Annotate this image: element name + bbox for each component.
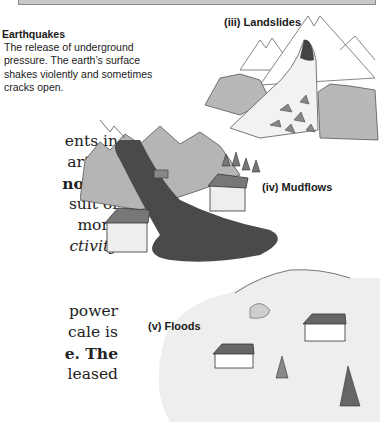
top-panel-edge <box>18 0 376 5</box>
mudflows-label: (iv) Mudflows <box>262 181 332 193</box>
floods-label: (v) Floods <box>148 320 201 332</box>
earthquakes-title: Earthquakes <box>2 28 177 41</box>
floods-illustration <box>150 268 380 422</box>
landslides-label: (iii) Landslides <box>224 16 301 28</box>
earthquakes-description: The release of underground pressure. The… <box>2 41 177 94</box>
mudflows-illustration <box>80 120 310 270</box>
earthquakes-caption: Earthquakes The release of underground p… <box>2 28 177 94</box>
